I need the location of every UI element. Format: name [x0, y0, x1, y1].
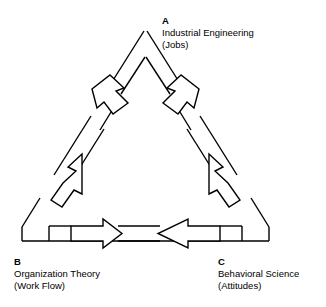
node-subtitle-a: (Jobs): [162, 39, 254, 51]
node-letter-c: C: [218, 256, 299, 268]
node-label-a: A Industrial Engineering (Jobs): [162, 15, 254, 51]
arrow-c-to-a: [209, 154, 240, 207]
triangle-diagram: A Industrial Engineering (Jobs) B Organi…: [0, 0, 326, 307]
node-subtitle-c: (Attitudes): [218, 280, 299, 292]
node-label-c: C Behavioral Science (Attitudes): [218, 256, 299, 292]
arrow-c-to-b: [158, 219, 220, 248]
edge-line-a-c-foot: [251, 198, 269, 227]
arrow-b-to-c: [71, 219, 122, 248]
node-title-a: Industrial Engineering: [162, 27, 254, 39]
edge-line-a-b-foot: [22, 198, 40, 227]
node-title-b: Organization Theory: [14, 268, 100, 280]
arrow-b-to-a: [51, 154, 82, 207]
node-label-b: B Organization Theory (Work Flow): [14, 256, 100, 292]
node-title-c: Behavioral Science: [218, 268, 299, 280]
node-subtitle-b: (Work Flow): [14, 280, 100, 292]
arrow-a-to-b: [92, 75, 128, 114]
arrow-a-to-c: [163, 75, 199, 114]
node-letter-a: A: [162, 15, 254, 27]
node-letter-b: B: [14, 256, 100, 268]
